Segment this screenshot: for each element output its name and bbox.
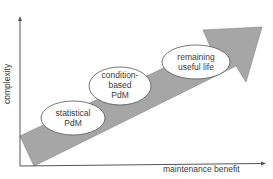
stage-text: remaining (172, 52, 220, 62)
stage-label-condition-based: condition- based PdM (98, 70, 142, 100)
stage-text: useful life (172, 62, 220, 72)
x-axis-arrowhead-icon (261, 162, 266, 166)
stage-text: PdM (51, 118, 95, 128)
stage-text: statistical (51, 108, 95, 118)
stage-label-rul: remaining useful life (172, 52, 220, 72)
stage-text: based (98, 80, 142, 90)
x-axis-label: maintenance benefit (163, 164, 240, 174)
stage-text: PdM (98, 90, 142, 100)
stage-text: condition- (98, 70, 142, 80)
stage-label-statistical: statistical PdM (51, 108, 95, 128)
y-axis-label: complexity (2, 64, 12, 104)
y-axis-arrowhead-icon (18, 16, 22, 21)
